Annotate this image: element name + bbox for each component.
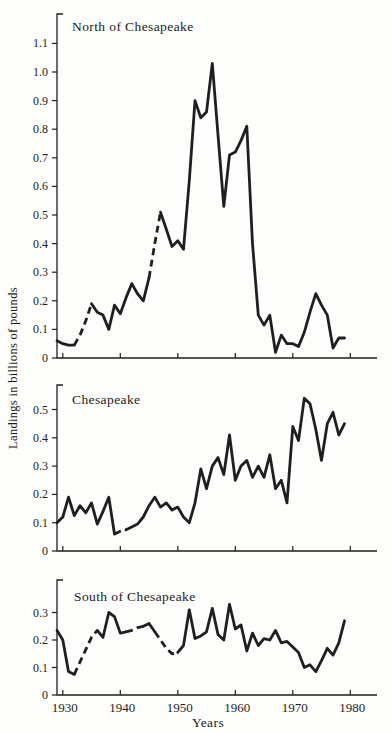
y-tick-label: 0.6	[33, 179, 48, 193]
series-line	[143, 624, 155, 632]
x-tick-label: 1960	[224, 700, 250, 715]
y-tick-label: 0.9	[33, 94, 48, 108]
y-tick-label: 0.2	[33, 633, 48, 647]
series-line-dashed	[149, 212, 161, 278]
series-line-dashed	[126, 626, 143, 632]
axis-spine	[57, 14, 377, 358]
series-line	[57, 630, 74, 674]
y-tick-label: 0.4	[33, 237, 48, 251]
series-line	[178, 604, 345, 671]
y-tick-label: 1.0	[33, 65, 48, 79]
x-tick-label: 1940	[109, 700, 135, 715]
y-tick-label: 0.8	[33, 122, 48, 136]
y-tick-label: 0	[42, 544, 48, 558]
y-tick-label: 0	[42, 351, 48, 365]
series-line	[97, 613, 126, 638]
y-tick-label: 0.1	[33, 516, 48, 530]
chart-title-south-of-chesapeake: South of Chesapeake	[74, 589, 196, 605]
landings-charts-canvas: 00.10.20.30.40.50.60.70.80.91.01.100.10.…	[0, 0, 392, 732]
y-tick-label: 0	[42, 688, 48, 702]
series-line	[57, 341, 74, 345]
chart-title-chesapeake: Chesapeake	[72, 392, 140, 408]
y-tick-label: 0.4	[33, 431, 48, 445]
y-tick-label: 0.1	[33, 661, 48, 675]
y-axis-label: Landings in billions of pounds	[6, 287, 21, 449]
y-tick-label: 0.5	[33, 208, 48, 222]
series-line-dashed	[115, 530, 127, 534]
series-line-dashed	[74, 630, 97, 674]
x-axis-label: Years	[192, 715, 224, 731]
series-line-dashed	[155, 632, 178, 654]
x-tick-label: 1930	[52, 700, 78, 715]
y-tick-label: 0.2	[33, 294, 48, 308]
axis-spine	[57, 385, 377, 551]
y-tick-label: 0.7	[33, 151, 48, 165]
series-line	[57, 497, 115, 534]
x-tick-label: 1980	[339, 700, 365, 715]
figure-page: 00.10.20.30.40.50.60.70.80.91.01.100.10.…	[0, 0, 392, 732]
y-tick-label: 0.3	[33, 606, 48, 620]
chart-2: 00.10.20.30.40.5	[33, 385, 377, 558]
x-tick-label: 1970	[282, 700, 308, 715]
chart-title-north-of-chesapeake: North of Chesapeake	[72, 19, 194, 35]
y-tick-label: 0.1	[33, 322, 48, 336]
y-tick-label: 1.1	[33, 36, 48, 50]
chart-1: 00.10.20.30.40.50.60.70.80.91.01.1	[33, 14, 377, 365]
series-line-dashed	[74, 304, 91, 345]
y-tick-label: 0.3	[33, 265, 48, 279]
y-tick-label: 0.3	[33, 459, 48, 473]
y-tick-label: 0.2	[33, 487, 48, 501]
series-line	[92, 278, 150, 330]
series-line	[161, 63, 345, 352]
x-tick-label: 1950	[167, 700, 193, 715]
y-tick-label: 0.5	[33, 403, 48, 417]
series-line	[126, 398, 345, 530]
